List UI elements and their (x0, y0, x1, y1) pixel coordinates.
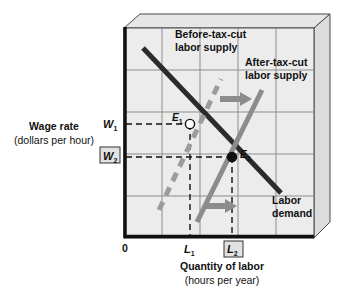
box-top-face (124, 14, 330, 28)
equilibrium-point-e1-marker (185, 119, 194, 128)
x-axis-subtitle: (hours per year) (185, 274, 260, 286)
labor-demand-label-line1: Labor (272, 194, 301, 206)
x-tick-label-l1: L1 (184, 243, 195, 257)
after-supply-label-line2: labor supply (245, 69, 308, 81)
labor-demand-label-line2: demand (272, 207, 312, 219)
x-origin-label: 0 (122, 242, 128, 254)
after-supply-label-line1: After-tax-cut (245, 56, 308, 68)
box-right-face (314, 14, 330, 238)
labor-market-diagram: Before-tax-cut labor supply After-tax-cu… (0, 0, 344, 297)
y-axis-subtitle: (dollars per hour) (14, 134, 94, 146)
x-axis-title: Quantity of labor (180, 260, 264, 272)
y-tick-label-w1: W1 (103, 118, 117, 132)
figure-container: Before-tax-cut labor supply After-tax-cu… (0, 0, 344, 297)
equilibrium-point-e2-marker (227, 152, 236, 161)
y-axis-title: Wage rate (29, 120, 79, 132)
before-supply-label-line1: Before-tax-cut (175, 28, 247, 40)
before-supply-label-line2: labor supply (175, 41, 238, 53)
